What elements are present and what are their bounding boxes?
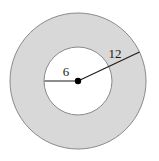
inner-radius-label: 6 bbox=[63, 64, 70, 79]
annulus-figure: 6 12 bbox=[0, 0, 159, 161]
outer-radius-label: 12 bbox=[109, 46, 122, 61]
annulus-diagram-svg: 6 12 bbox=[0, 0, 159, 161]
center-point bbox=[75, 78, 81, 84]
